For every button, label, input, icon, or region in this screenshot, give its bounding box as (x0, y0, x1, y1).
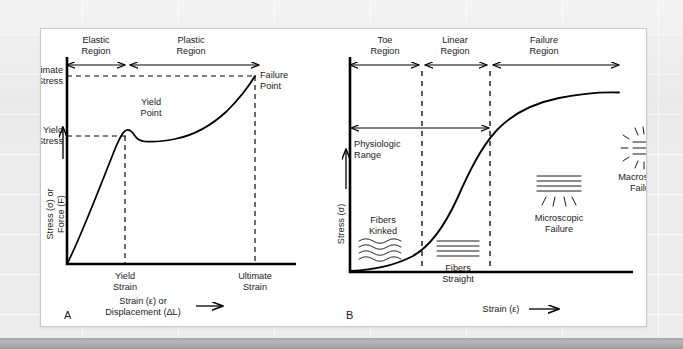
yield-point-label-line1: Yield (141, 97, 161, 107)
fibers-straight-icon (437, 241, 479, 256)
physiologic-range-label-line1: Physiologic (354, 139, 401, 149)
panel-a-letter: A (64, 309, 72, 321)
panel-a-x-axis-title-line1: Strain (ε) or (119, 296, 167, 306)
yield-stress-label-line2: Stress (41, 136, 63, 146)
figure-svg: Elastic Region Plastic Region Ultimate S… (41, 29, 646, 326)
yield-strain-label-line1: Yield (115, 271, 135, 281)
physiologic-range-label-line2: Range (354, 150, 381, 160)
panel-b-curve (351, 92, 619, 271)
microscopic-failure-label-line1: Microscopic (535, 213, 584, 223)
macroscopic-failure-label-line2: Failure (630, 183, 646, 193)
panel-a-y-axis-title-line1: Stress (σ) or (45, 188, 55, 239)
linear-region-label-line1: Linear (442, 35, 468, 45)
fibers-kinked-icon (359, 239, 401, 262)
fibers-kinked-label-line1: Fibers (370, 215, 396, 225)
linear-region-label-line2: Region (440, 46, 469, 56)
fibers-straight-label-line1: Fibers (445, 263, 471, 273)
microscopic-failure-icon (537, 176, 581, 206)
elastic-region-label-line2: Region (81, 46, 110, 56)
bottom-bar (0, 338, 683, 349)
yield-point-label-line2: Point (141, 108, 162, 118)
plastic-region-label-line1: Plastic (177, 35, 204, 45)
fibers-straight-label-line2: Straight (442, 274, 474, 284)
panel-b-letter: B (346, 309, 353, 321)
ultimate-strain-label-line1: Ultimate (238, 271, 272, 281)
failure-region-label-line1: Failure (530, 35, 558, 45)
failure-point-label-line2: Point (260, 81, 281, 91)
ultimate-stress-label-line1: Ultimate (41, 65, 63, 75)
yield-strain-label-line2: Strain (113, 282, 137, 292)
yield-stress-label-line1: Yield (43, 125, 63, 135)
failure-point-label-line1: Failure (260, 70, 288, 80)
toe-region-label-line2: Region (370, 46, 399, 56)
panel-b: Toe Region Linear Region Failure Region … (336, 35, 646, 321)
fibers-kinked-label-line2: Kinked (369, 226, 397, 236)
ultimate-stress-label-line2: Stress (41, 76, 63, 86)
microscopic-failure-label-line2: Failure (545, 224, 573, 234)
panel-a: Elastic Region Plastic Region Ultimate S… (41, 35, 296, 321)
panel-a-y-axis-title-line2: Force (F) (56, 195, 66, 233)
macroscopic-failure-label-line1: Macroscopic (618, 172, 646, 182)
plastic-region-label-line2: Region (176, 46, 205, 56)
failure-region-label-line2: Region (529, 46, 558, 56)
panel-a-x-axis-title-line2: Displacement (ΔL) (105, 307, 181, 317)
panel-b-y-axis-title: Stress (σ) (336, 204, 346, 244)
elastic-region-label-line1: Elastic (82, 35, 109, 45)
toe-region-label-line1: Toe (378, 35, 393, 45)
macroscopic-failure-icon (621, 127, 646, 169)
ultimate-strain-label-line2: Strain (243, 282, 267, 292)
panel-b-x-axis-title: Strain (ε) (483, 304, 520, 314)
figure-card: Elastic Region Plastic Region Ultimate S… (40, 28, 647, 327)
